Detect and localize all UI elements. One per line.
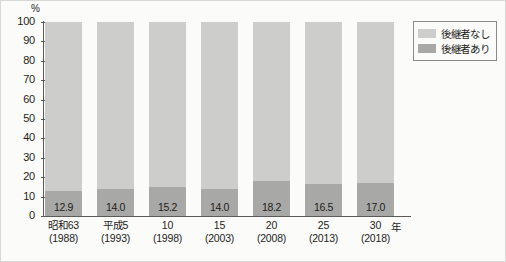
y-axis-tick-label: 70 <box>23 73 35 85</box>
x-axis-label-year: (1988) <box>36 232 92 245</box>
y-axis-tick-label: 0 <box>29 209 35 221</box>
x-axis-label-era: 10 <box>140 219 196 232</box>
bar-segment-no-successor <box>45 22 82 191</box>
y-axis-tick-mark <box>41 216 45 217</box>
bar-segment-no-successor <box>253 22 290 181</box>
x-axis-unit-label: 年 <box>391 219 401 234</box>
y-axis-tick-label: 100 <box>17 15 35 27</box>
chart-legend: 後継者なし後継者あり <box>413 21 497 61</box>
bar: 14.0 <box>201 22 238 216</box>
x-axis-label-year: (1998) <box>140 232 196 245</box>
bar-segment-no-successor <box>357 22 394 183</box>
bar-value-label: 17.0 <box>357 201 394 213</box>
y-axis-tick-label: 10 <box>23 190 35 202</box>
x-axis-label-era: 20 <box>244 219 300 232</box>
legend-swatch <box>418 29 436 38</box>
bar: 14.0 <box>97 22 134 216</box>
legend-swatch <box>418 44 436 53</box>
x-axis-line <box>43 216 411 217</box>
plot-area: 12.914.015.214.018.216.517.0 <box>45 22 409 216</box>
bar-segment-no-successor <box>97 22 134 189</box>
chart-page: % 1009080706050403020100 12.914.015.214.… <box>0 0 506 262</box>
bar-value-label: 12.9 <box>45 201 82 213</box>
y-axis-unit-label: % <box>31 3 40 14</box>
x-axis-label-era: 25 <box>296 219 352 232</box>
y-axis-tick-label: 40 <box>23 131 35 143</box>
x-axis-label: 10(1998) <box>140 219 196 245</box>
y-axis-tick-label: 20 <box>23 170 35 182</box>
bar-value-label: 18.2 <box>253 201 290 213</box>
legend-item: 後継者あり <box>418 41 492 56</box>
bar: 17.0 <box>357 22 394 216</box>
bar: 15.2 <box>149 22 186 216</box>
y-axis-tick-label: 50 <box>23 112 35 124</box>
bar-value-label: 16.5 <box>305 201 342 213</box>
x-axis-label: 15(2003) <box>192 219 248 245</box>
x-axis-label: 平成5(1993) <box>88 219 144 245</box>
y-axis-tick-label: 60 <box>23 93 35 105</box>
x-axis-label-era: 昭和63 <box>36 219 92 232</box>
x-axis-label-era: 15 <box>192 219 248 232</box>
bar-value-label: 15.2 <box>149 201 186 213</box>
bar: 18.2 <box>253 22 290 216</box>
x-axis-label: 20(2008) <box>244 219 300 245</box>
bar: 12.9 <box>45 22 82 216</box>
x-axis-label-era: 平成5 <box>88 219 144 232</box>
bar: 16.5 <box>305 22 342 216</box>
bar-value-label: 14.0 <box>201 201 238 213</box>
x-axis-label-year: (2003) <box>192 232 248 245</box>
legend-label: 後継者あり <box>441 41 490 56</box>
x-axis-label: 25(2013) <box>296 219 352 245</box>
bar-segment-no-successor <box>201 22 238 189</box>
bar-segment-no-successor <box>305 22 342 184</box>
y-axis-tick-label: 90 <box>23 34 35 46</box>
y-axis-tick-label: 80 <box>23 54 35 66</box>
legend-label: 後継者なし <box>441 26 490 41</box>
x-axis-label: 昭和63(1988) <box>36 219 92 245</box>
bar-value-label: 14.0 <box>97 201 134 213</box>
legend-item: 後継者なし <box>418 26 492 41</box>
x-axis-label-year: (2013) <box>296 232 352 245</box>
x-axis-label-year: (1993) <box>88 232 144 245</box>
x-axis-label-year: (2008) <box>244 232 300 245</box>
y-axis-tick-label: 30 <box>23 151 35 163</box>
bar-segment-no-successor <box>149 22 186 187</box>
